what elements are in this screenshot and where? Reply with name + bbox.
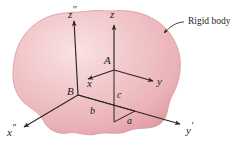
dimension-label-b: b <box>90 106 95 116</box>
rigid-body-figure: z′′ x′′ y′ z x y A B a b c Rigid body <box>0 0 239 148</box>
dimension-label-c: c <box>117 90 121 100</box>
point-label-A: A <box>104 55 111 66</box>
axis-label-z-double-prime: z′′ <box>68 5 76 20</box>
axis-label-z: z <box>110 9 114 20</box>
axis-label-y-prime: y′ <box>186 121 193 136</box>
point-label-B: B <box>67 86 74 97</box>
rigid-body-callout-label: Rigid body <box>188 16 231 26</box>
rigid-body-shape <box>13 11 180 135</box>
axis-label-y: y <box>157 76 162 87</box>
axis-label-x: x <box>87 78 92 89</box>
axis-label-x-double-prime: x′′ <box>7 123 16 138</box>
dimension-label-a: a <box>127 116 132 126</box>
